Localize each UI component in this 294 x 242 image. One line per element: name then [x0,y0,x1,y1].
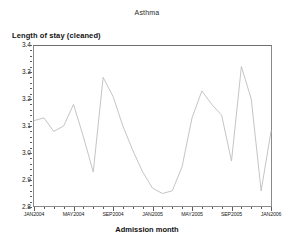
x-tick-label: JAN2006 [254,211,288,217]
x-tick-minor [162,207,163,209]
x-tick-minor [123,207,124,209]
x-tick-minor [54,207,55,209]
x-tick-major [232,207,233,211]
x-axis-ticks: JAN2004MAY2004SEP2004JAN2005MAY2005SEP20… [0,0,294,242]
x-tick-major [34,207,35,211]
x-tick-major [74,207,75,211]
x-tick-major [192,207,193,211]
x-tick-major [153,207,154,211]
x-tick-minor [212,207,213,209]
x-tick-minor [172,207,173,209]
x-tick-minor [103,207,104,209]
x-tick-minor [241,207,242,209]
x-tick-label: JAN2004 [17,211,51,217]
x-tick-minor [222,207,223,209]
x-tick-label: JAN2005 [136,211,170,217]
x-tick-minor [64,207,65,209]
x-axis-label: Admission month [0,225,294,234]
x-tick-label: MAY2005 [175,211,209,217]
x-tick-minor [93,207,94,209]
x-tick-minor [133,207,134,209]
x-tick-minor [261,207,262,209]
x-tick-minor [83,207,84,209]
x-tick-minor [143,207,144,209]
x-tick-label: MAY2004 [57,211,91,217]
x-tick-label: SEP2005 [215,211,249,217]
chart-container: Asthma Length of stay (cleaned) 3.43.33.… [0,0,294,242]
x-tick-major [271,207,272,211]
x-tick-major [113,207,114,211]
x-tick-minor [202,207,203,209]
x-tick-minor [44,207,45,209]
x-tick-minor [182,207,183,209]
x-tick-label: SEP2004 [96,211,130,217]
x-tick-minor [251,207,252,209]
